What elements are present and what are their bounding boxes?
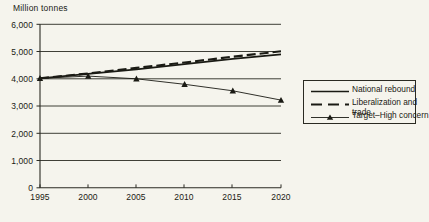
x-tick-label-2010: 2010 xyxy=(164,192,204,202)
legend-label-national-rebound: National rebound xyxy=(352,85,415,95)
y-tick-label-3000: 3,000 xyxy=(0,101,33,111)
y-tick-label-6000: 6,000 xyxy=(0,20,33,30)
legend-swatch-solid-line xyxy=(310,86,350,97)
legend-swatch-triangle-marker-line xyxy=(310,112,350,123)
legend-label-target-high-concern: Target–High concern xyxy=(352,111,429,121)
x-tick-label-2005: 2005 xyxy=(116,192,156,202)
legend-item-target-high-concern[interactable]: Target–High concern xyxy=(304,112,417,124)
y-tick-label-4000: 4,000 xyxy=(0,74,33,84)
x-tick-label-2000: 2000 xyxy=(68,192,108,202)
chart-axis-title: Million tonnes xyxy=(13,3,68,13)
chart-legend: National rebound Liberalization and trad… xyxy=(303,80,416,124)
legend-swatch-dashed-line xyxy=(310,99,350,110)
x-tick-label-1995: 1995 xyxy=(20,192,60,202)
x-tick-label-2015: 2015 xyxy=(212,192,252,202)
x-tick-label-2020: 2020 xyxy=(261,192,301,202)
y-tick-label-5000: 5,000 xyxy=(0,47,33,57)
y-tick-label-1000: 1,000 xyxy=(0,156,33,166)
y-tick-label-2000: 2,000 xyxy=(0,129,33,139)
